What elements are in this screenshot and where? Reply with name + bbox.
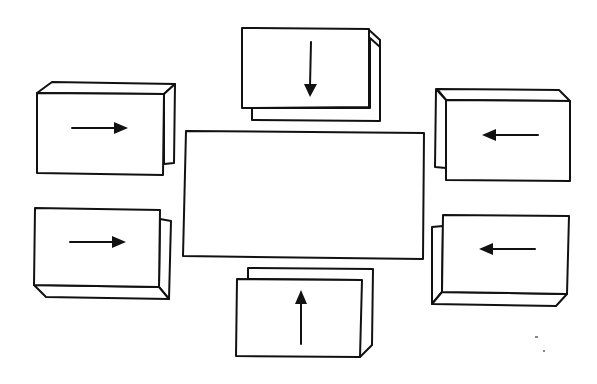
- box-bottom-left: [34, 208, 171, 299]
- box-bottom-left-side-panel: [159, 219, 171, 299]
- box-bottom-front: [236, 279, 362, 357]
- box-bottom-right: [432, 215, 569, 306]
- center-box: [183, 131, 424, 259]
- box-top-right-front: [446, 100, 570, 181]
- box-top: [242, 28, 380, 121]
- box-top-front: [242, 28, 369, 108]
- box-top-left: [37, 82, 175, 175]
- box-top-left-side-panel: [164, 84, 175, 164]
- diagram-canvas: [0, 0, 597, 384]
- scan-specks: [535, 336, 545, 352]
- box-top-right: [435, 89, 570, 181]
- box-bottom: [236, 268, 373, 357]
- box-bottom-right-front: [442, 215, 569, 294]
- box-top-right-side-panel: [435, 89, 446, 168]
- box-bottom-left-front: [34, 208, 160, 287]
- box-top-left-front: [37, 93, 164, 175]
